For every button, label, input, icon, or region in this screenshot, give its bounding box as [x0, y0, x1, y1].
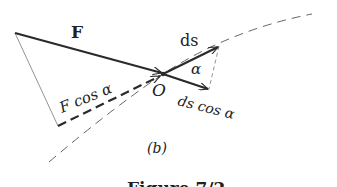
force-label: F	[71, 22, 83, 42]
construction-line-ds	[209, 46, 219, 89]
displacement-label: ds	[180, 31, 198, 50]
figure-caption: Figure 7/2	[127, 178, 225, 187]
origin-label: O	[152, 80, 166, 100]
panel-label: (b)	[147, 140, 167, 156]
displacement-component-vector	[163, 74, 208, 89]
angle-label: α	[191, 60, 201, 78]
work-diagram: F F cos α O ds α ds cos α (b) Figure 7/2	[0, 0, 337, 187]
force-vector	[15, 33, 162, 73]
displacement-component-label: ds cos α	[176, 92, 237, 122]
construction-line-force	[15, 33, 58, 126]
origin-point	[161, 72, 165, 76]
